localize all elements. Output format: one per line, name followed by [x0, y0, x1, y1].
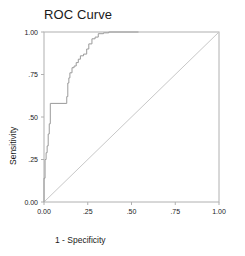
y-tick-label: 1.00 — [24, 29, 38, 36]
x-tick-label: 0.00 — [37, 208, 51, 215]
x-tick-label: .75 — [170, 208, 180, 215]
x-tick-label: 1.00 — [212, 208, 226, 215]
reference-diagonal-line — [44, 32, 219, 202]
y-tick-label: .50 — [28, 114, 38, 121]
roc-curve-line — [44, 32, 139, 202]
y-tick-label: .25 — [28, 156, 38, 163]
x-axis-tick-labels: 0.00.25.50.751.00 — [37, 208, 226, 215]
plot-area: 0.00.25.50.751.00 0.00.25.50.751.00 1 - … — [0, 0, 245, 256]
x-tick-label: .50 — [127, 208, 137, 215]
y-axis-tick-labels: 0.00.25.50.751.00 — [24, 29, 38, 206]
y-tick-label: .75 — [28, 71, 38, 78]
x-axis-title: 1 - Specificity — [55, 235, 106, 245]
y-tick-label: 0.00 — [24, 199, 38, 206]
y-axis-title: Sensitivity — [8, 126, 18, 165]
x-tick-label: .25 — [83, 208, 93, 215]
roc-curve-chart: ROC Curve 0.00.25.50.751.00 0.00.25.50.7… — [0, 0, 245, 256]
